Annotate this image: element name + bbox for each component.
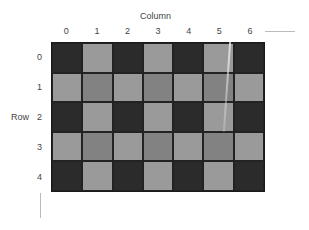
grid-cell [173,43,203,73]
grid-cell [113,161,143,191]
row-direction-arrow [40,193,41,218]
grid-cell [234,43,264,73]
grid-cell [173,161,203,191]
grid-cell [82,132,112,162]
grid-cell [143,132,173,162]
grid-cell [52,132,82,162]
row-label: 3 [37,132,42,162]
grid-cell [113,73,143,103]
grid-cell [52,43,82,73]
grid-cell [113,43,143,73]
grid-cell [203,102,233,132]
grid-cell [234,132,264,162]
column-label: 3 [143,26,174,36]
column-labels: 0 1 2 3 4 5 6 [51,26,265,38]
grid-cell [234,73,264,103]
grid-cell [113,102,143,132]
grid-cell [234,102,264,132]
row-label: 1 [37,72,42,102]
column-label: 5 [204,26,235,36]
grid-cell [203,161,233,191]
grid-cell [82,161,112,191]
column-direction-arrow [265,31,295,32]
checker-grid [51,42,265,192]
column-label: 2 [112,26,143,36]
row-label: 2 [37,102,42,132]
grid-cell [143,102,173,132]
grid-cell [143,161,173,191]
column-label: 1 [82,26,113,36]
column-label: 6 [235,26,266,36]
grid-cell [52,102,82,132]
grid-cell [52,73,82,103]
row-labels: 0 1 2 3 4 [0,42,48,192]
grid-cell [234,161,264,191]
row-label: 4 [37,162,42,192]
grid-cell [173,73,203,103]
grid-cell [203,132,233,162]
column-label: 4 [173,26,204,36]
column-label: 0 [51,26,82,36]
grid-cell [143,73,173,103]
grid-cell [82,73,112,103]
grid-cell [113,132,143,162]
grid-cell [82,102,112,132]
grid-cell [52,161,82,191]
grid-cell [82,43,112,73]
grid-cell [143,43,173,73]
grid-cell [173,132,203,162]
grid-cell [203,73,233,103]
column-axis-title: Column [140,11,171,21]
grid-cell [173,102,203,132]
row-label: 0 [37,42,42,72]
